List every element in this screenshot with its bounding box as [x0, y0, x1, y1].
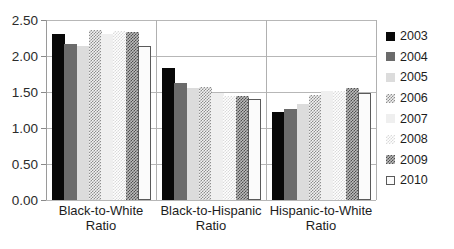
- gridline: [46, 200, 376, 201]
- legend-label: 2005: [400, 70, 428, 84]
- legend-label: 2003: [400, 29, 428, 43]
- legend-label: 2009: [400, 153, 428, 167]
- legend-swatch-icon: [386, 155, 395, 164]
- bar-2007-2: [321, 91, 334, 200]
- legend-swatch-icon: [386, 32, 395, 41]
- legend-item-2003[interactable]: 2003: [386, 26, 454, 47]
- y-axis-labels: 0.000.501.001.502.002.50: [0, 0, 46, 249]
- category-label-2: Hispanic-to-White Ratio: [266, 203, 376, 233]
- bar-2009-2: [346, 88, 359, 200]
- legend-swatch-icon: [386, 94, 395, 103]
- legend-item-2005[interactable]: 2005: [386, 67, 454, 88]
- bar-group: [266, 20, 376, 200]
- y-axis-tick-label: 0.00: [12, 193, 38, 208]
- legend-label: 2007: [400, 112, 428, 126]
- y-axis-tick-label: 0.50: [12, 157, 38, 172]
- bar-2010-1: [248, 99, 261, 200]
- bar-2007-0: [101, 34, 114, 200]
- bar-2005-1: [187, 88, 200, 200]
- bar-2003-1: [162, 68, 175, 200]
- bar-group: [156, 20, 266, 200]
- bar-2008-1: [223, 96, 236, 200]
- legend-swatch-icon: [386, 176, 395, 185]
- bar-2009-0: [126, 32, 139, 200]
- legend-item-2004[interactable]: 2004: [386, 47, 454, 68]
- y-axis-tick: [41, 200, 46, 201]
- y-axis-tick: [41, 56, 46, 57]
- bar-group: [46, 20, 156, 200]
- legend-swatch-icon: [386, 114, 395, 123]
- legend-label: 2004: [400, 50, 428, 64]
- bar-2004-1: [174, 83, 187, 200]
- legend-item-2010[interactable]: 2010: [386, 170, 454, 191]
- legend-swatch-icon: [386, 52, 395, 61]
- legend-label: 2010: [400, 173, 428, 187]
- legend-item-2009[interactable]: 2009: [386, 150, 454, 171]
- legend-item-2007[interactable]: 2007: [386, 108, 454, 129]
- bar-2004-0: [64, 44, 77, 200]
- group-separator: [376, 20, 377, 200]
- bar-2010-2: [358, 93, 371, 200]
- y-axis-tick-label: 2.00: [12, 49, 38, 64]
- bar-2003-2: [272, 112, 285, 200]
- bar-2004-2: [284, 109, 297, 200]
- bar-2007-1: [211, 93, 224, 200]
- legend: 20032004200520062007200820092010: [386, 26, 454, 191]
- legend-swatch-icon: [386, 73, 395, 82]
- bar-2008-0: [113, 31, 126, 200]
- bar-2003-0: [52, 34, 65, 200]
- legend-item-2006[interactable]: 2006: [386, 88, 454, 109]
- y-axis-tick-label: 1.00: [12, 121, 38, 136]
- y-axis-line: [46, 20, 47, 200]
- legend-item-2008[interactable]: 2008: [386, 129, 454, 150]
- category-label-1: Black-to-Hispanic Ratio: [156, 203, 266, 233]
- y-axis-tick: [41, 20, 46, 21]
- legend-label: 2008: [400, 132, 428, 146]
- y-axis-tick: [41, 128, 46, 129]
- y-axis-tick-label: 1.50: [12, 85, 38, 100]
- category-label-0: Black-to-White Ratio: [46, 203, 156, 233]
- bar-chart: 0.000.501.001.502.002.50 Black-to-White …: [0, 0, 454, 249]
- bar-2010-0: [138, 46, 151, 200]
- plot-area: [46, 20, 376, 200]
- bar-2006-2: [309, 95, 322, 200]
- bar-2006-0: [89, 30, 102, 200]
- bar-2009-1: [236, 96, 249, 200]
- y-axis-tick: [41, 92, 46, 93]
- legend-label: 2006: [400, 91, 428, 105]
- y-axis-tick-label: 2.50: [12, 13, 38, 28]
- bar-2008-2: [333, 91, 346, 200]
- bar-2005-0: [77, 46, 90, 200]
- y-axis-tick: [41, 164, 46, 165]
- legend-swatch-icon: [386, 135, 395, 144]
- bar-2006-1: [199, 87, 212, 200]
- bar-2005-2: [297, 104, 310, 200]
